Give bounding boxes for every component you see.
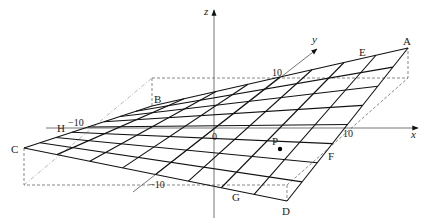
x-tick-10: 10 (343, 128, 353, 139)
point-p-marker (278, 147, 282, 151)
x-axis-label: x (410, 128, 416, 140)
saddle-surface-diagram: z y x 0 10 −10 10 −10 A B C D E F G H P (0, 0, 428, 220)
z-axis-label: z (203, 5, 209, 17)
point-f-label: F (328, 150, 334, 162)
grid-line-v (72, 132, 332, 143)
point-e-label: E (359, 46, 366, 58)
point-g-label: G (232, 191, 240, 203)
point-p-label: P (272, 135, 278, 147)
y-tick-10: 10 (272, 67, 282, 78)
origin-label: 0 (212, 131, 217, 142)
point-d-label: D (282, 205, 290, 217)
y-axis-label: y (311, 33, 317, 45)
point-c-label: C (11, 143, 18, 155)
point-a-label: A (403, 35, 411, 47)
point-h-label: H (57, 122, 65, 134)
y-tick-neg10: −10 (149, 179, 165, 190)
x-tick-neg10: −10 (68, 117, 84, 128)
point-b-label: B (154, 93, 161, 105)
